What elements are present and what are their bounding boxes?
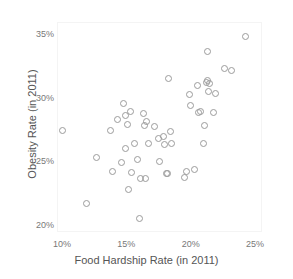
x-tick-label: 10%	[42, 239, 82, 249]
y-axis-title: Obesity Rate (in 2011)	[26, 34, 38, 214]
y-tick-label: 20%	[20, 220, 54, 230]
x-tick-label: 20%	[171, 239, 211, 249]
x-tick-label: 15%	[106, 239, 146, 249]
scatter-chart-figure: 20%25%30%35% 10%15%20%25% Food Hardship …	[0, 0, 293, 279]
x-axis-tick-labels: 10%15%20%25%	[0, 239, 293, 253]
x-axis-title: Food Hardship Rate (in 2011)	[0, 254, 293, 266]
plot-area	[57, 22, 262, 232]
x-tick-label: 25%	[235, 239, 275, 249]
